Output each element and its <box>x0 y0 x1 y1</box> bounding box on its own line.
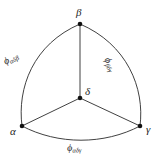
vertex-dot-gamma <box>138 124 143 129</box>
arc-alpha-beta <box>21 24 80 126</box>
vertex-label-gamma: γ <box>146 124 150 135</box>
arc-beta-gamma <box>80 24 141 126</box>
vertex-label-alpha: α <box>10 126 16 137</box>
edge-delta-gamma <box>80 98 140 126</box>
arc-label-bottom-subscript: αδγ <box>72 146 82 153</box>
edge-delta-alpha <box>22 98 80 126</box>
spherical-triangle-figure: β δ α γ ϕαδβ ϕβδγ ϕαδγ <box>0 0 161 161</box>
arc-label-alpha-delta-gamma: ϕαδγ <box>67 142 82 153</box>
vertex-dot-beta <box>78 22 83 27</box>
vertex-dot-delta <box>78 96 83 101</box>
vertex-label-delta: δ <box>85 86 90 97</box>
arc-alpha-gamma <box>22 126 140 140</box>
figure-canvas <box>0 0 161 161</box>
vertex-label-beta: β <box>76 7 81 18</box>
vertex-dot-alpha <box>20 124 25 129</box>
